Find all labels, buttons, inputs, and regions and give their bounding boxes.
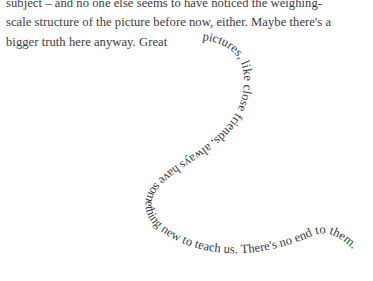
curved-text: pictures, like close friends, always hav…	[142, 29, 360, 256]
book-page: subject – and no one else seems to have …	[0, 0, 373, 281]
curved-text-graphic: pictures, like close friends, always hav…	[0, 0, 373, 281]
curved-text-path: pictures, like close friends, always hav…	[142, 29, 360, 256]
